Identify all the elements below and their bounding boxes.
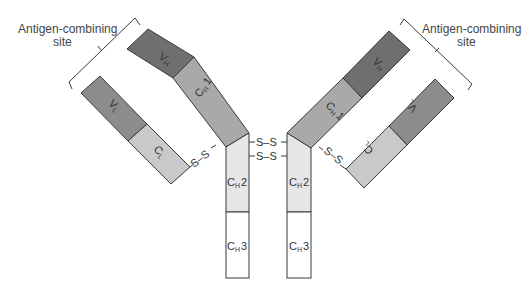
right-site-label-line2: site bbox=[457, 35, 476, 49]
right-site-label-line1: Antigen-combining bbox=[422, 22, 521, 36]
left-interchain-bond: S–S bbox=[188, 147, 212, 169]
right-heavy-stem: CH2 CH3 bbox=[287, 133, 311, 278]
right-interchain-bond: S–S bbox=[322, 144, 346, 166]
hinge-bond-bottom: S–S bbox=[256, 150, 277, 162]
left-site-label-line1: Antigen-combining bbox=[18, 22, 117, 36]
left-light-chain: VL CL bbox=[81, 76, 190, 184]
left-ch1-domain bbox=[173, 57, 249, 147]
right-ch1-domain bbox=[287, 78, 362, 148]
right-cl-domain bbox=[346, 126, 407, 188]
right-interchain-disulfide: S–S bbox=[319, 144, 346, 169]
right-vl-domain bbox=[389, 79, 454, 145]
hinge-bond-top: S–S bbox=[256, 136, 277, 148]
left-site-label-line2: site bbox=[53, 35, 72, 49]
hinge-disulfide-bonds: S–S S–S bbox=[249, 136, 287, 162]
left-interchain-disulfide: S–S bbox=[188, 145, 216, 170]
left-heavy-stem: CH2 CH3 bbox=[226, 133, 249, 278]
left-ch2-domain bbox=[226, 133, 249, 212]
antibody-diagram: VH CH1 VL CL VH CH1 VL CL bbox=[0, 0, 532, 294]
